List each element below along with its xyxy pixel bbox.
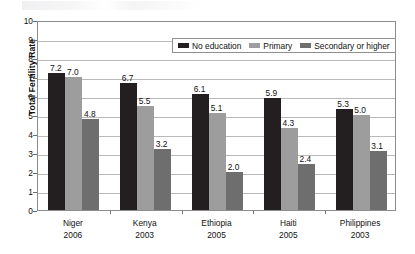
x-axis-year: 2005 xyxy=(279,229,298,241)
bar-value-label: 5.3 xyxy=(337,99,349,109)
x-axis-label: Ethiopia2005 xyxy=(201,217,231,241)
category-separator xyxy=(110,210,111,214)
legend-item: Primary xyxy=(249,41,292,51)
bar-value-label: 4.8 xyxy=(84,109,96,119)
y-tick-label: 9 xyxy=(5,35,33,45)
bar xyxy=(226,172,243,210)
x-axis-label: Kenya2003 xyxy=(133,217,157,241)
bar xyxy=(137,106,154,211)
scan-artifact xyxy=(22,1,202,10)
fertility-rate-bar-chart: Total Fertility Rate 109876543210 Niger2… xyxy=(0,0,415,254)
legend-swatch-icon xyxy=(300,43,311,48)
bar xyxy=(65,77,82,210)
chart-legend: No educationPrimarySecondary or higher xyxy=(172,38,396,53)
bar-value-label: 7.0 xyxy=(67,67,79,77)
gridline xyxy=(38,60,395,61)
legend-item: Secondary or higher xyxy=(300,41,389,51)
bar-value-label: 5.0 xyxy=(354,105,366,115)
legend-swatch-icon xyxy=(249,43,260,48)
y-tick-label: 1 xyxy=(5,187,33,197)
x-axis-country: Haiti xyxy=(279,217,298,229)
bar-value-label: 6.7 xyxy=(122,73,134,83)
y-tick-label: 4 xyxy=(5,130,33,140)
y-tick-label: 3 xyxy=(5,149,33,159)
x-axis-label: Philippines2003 xyxy=(340,217,381,241)
x-axis-year: 2006 xyxy=(63,229,83,241)
bar-value-label: 4.3 xyxy=(282,118,294,128)
y-tick-label: 10 xyxy=(5,16,33,26)
bar xyxy=(281,128,298,210)
bar-value-label: 3.1 xyxy=(371,141,383,151)
bar-value-label: 2.0 xyxy=(228,162,240,172)
bar-value-label: 3.2 xyxy=(156,139,168,149)
x-axis-country: Ethiopia xyxy=(201,217,231,229)
bar xyxy=(192,94,209,210)
bar xyxy=(154,149,171,210)
bar xyxy=(336,109,353,210)
x-axis-country: Kenya xyxy=(133,217,157,229)
bar xyxy=(353,115,370,210)
bar-value-label: 7.2 xyxy=(50,63,62,73)
legend-label: Secondary or higher xyxy=(314,41,389,51)
x-axis-label: Niger2006 xyxy=(63,217,83,241)
category-separator xyxy=(253,210,254,214)
x-axis-year: 2003 xyxy=(340,229,381,241)
bar-value-label: 2.4 xyxy=(299,154,311,164)
bar xyxy=(48,73,65,210)
bar xyxy=(120,83,137,210)
legend-label: No education xyxy=(192,41,241,51)
gridline xyxy=(38,79,395,80)
y-tick-label: 5 xyxy=(5,111,33,121)
x-axis-year: 2005 xyxy=(201,229,231,241)
x-axis-country: Niger xyxy=(63,217,83,229)
bar-value-label: 5.9 xyxy=(265,88,277,98)
legend-swatch-icon xyxy=(178,43,189,48)
bar-value-label: 6.1 xyxy=(194,84,206,94)
category-separator xyxy=(325,210,326,214)
bar xyxy=(82,119,99,210)
y-tick-label: 7 xyxy=(5,73,33,83)
y-tick-label: 2 xyxy=(5,168,33,178)
legend-label: Primary xyxy=(263,41,292,51)
x-axis-year: 2003 xyxy=(133,229,157,241)
bar xyxy=(209,113,226,210)
legend-item: No education xyxy=(178,41,241,51)
bar-value-label: 5.5 xyxy=(139,96,151,106)
bar xyxy=(370,151,387,210)
x-axis-label: Haiti2005 xyxy=(279,217,298,241)
y-tick-label: 0 xyxy=(5,206,33,216)
bar-value-label: 5.1 xyxy=(211,103,223,113)
x-axis-country: Philippines xyxy=(340,217,381,229)
y-tick-mark xyxy=(33,211,37,212)
category-separator xyxy=(182,210,183,214)
y-tick-label: 8 xyxy=(5,54,33,64)
bar xyxy=(264,98,281,210)
bar xyxy=(298,164,315,210)
y-tick-label: 6 xyxy=(5,92,33,102)
